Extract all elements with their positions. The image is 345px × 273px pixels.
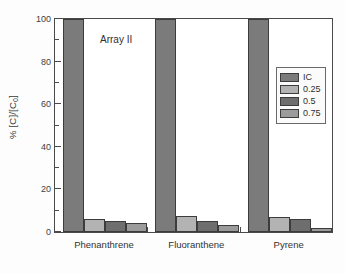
y-tick-minor (55, 167, 59, 168)
legend-label: 0.75 (303, 109, 321, 118)
bar (176, 216, 197, 232)
chart-legend: IC0.250.50.75 (276, 67, 326, 124)
x-axis-category-label: Phenanthrene (74, 239, 134, 250)
legend-item[interactable]: 0.25 (280, 84, 321, 95)
bar (269, 217, 290, 232)
y-tick-label: 20 (41, 184, 51, 194)
y-tick-minor (55, 210, 59, 211)
legend-swatch (280, 97, 299, 106)
y-tick-label: 40 (41, 142, 51, 152)
bar (311, 228, 332, 232)
x-axis-category-label: Fluoranthene (168, 239, 224, 250)
legend-item[interactable]: 0.75 (280, 108, 321, 119)
y-tick-major: 40 (55, 146, 61, 147)
x-tick (240, 227, 241, 232)
legend-item[interactable]: 0.5 (280, 96, 321, 107)
x-tick (147, 227, 148, 232)
y-tick-major: 0 (55, 231, 61, 232)
bar (126, 223, 147, 232)
y-axis-label-text: % [C]/[C (7, 101, 18, 138)
y-axis-label-subscript: 0 (12, 97, 19, 101)
y-tick-minor (55, 39, 59, 40)
legend-item[interactable]: IC (280, 72, 321, 83)
bar (218, 225, 239, 232)
legend-label: 0.5 (303, 97, 316, 106)
y-tick-label: 0 (46, 227, 51, 237)
legend-swatch (280, 109, 299, 118)
y-tick-minor (55, 82, 59, 83)
y-tick-label: 80 (41, 57, 51, 67)
y-tick-major: 80 (55, 61, 61, 62)
plot-area: 020406080100 (54, 18, 333, 233)
y-axis-label-suffix: ] (7, 95, 18, 98)
legend-label: 0.25 (303, 85, 321, 94)
bar (63, 19, 84, 232)
legend-label: IC (303, 73, 312, 82)
y-tick-label: 60 (41, 99, 51, 109)
bar (197, 221, 218, 232)
y-tick-major: 60 (55, 103, 61, 104)
y-tick-major: 100 (55, 18, 61, 19)
bar (248, 19, 269, 232)
y-tick-major: 20 (55, 188, 61, 189)
y-tick-minor (55, 125, 59, 126)
chart-figure: % [C]/[C0] 020406080100 PhenanthreneFluo… (0, 0, 345, 273)
bar (155, 19, 176, 232)
bar (290, 219, 311, 232)
legend-swatch (280, 85, 299, 94)
y-tick-label: 100 (36, 14, 51, 24)
chart-annotation: Array II (100, 34, 132, 45)
legend-swatch (280, 73, 299, 82)
x-axis-category-label: Pyrene (274, 239, 304, 250)
bar (84, 219, 105, 232)
bar (105, 221, 126, 232)
y-axis-label: % [C]/[C0] (2, 0, 24, 233)
